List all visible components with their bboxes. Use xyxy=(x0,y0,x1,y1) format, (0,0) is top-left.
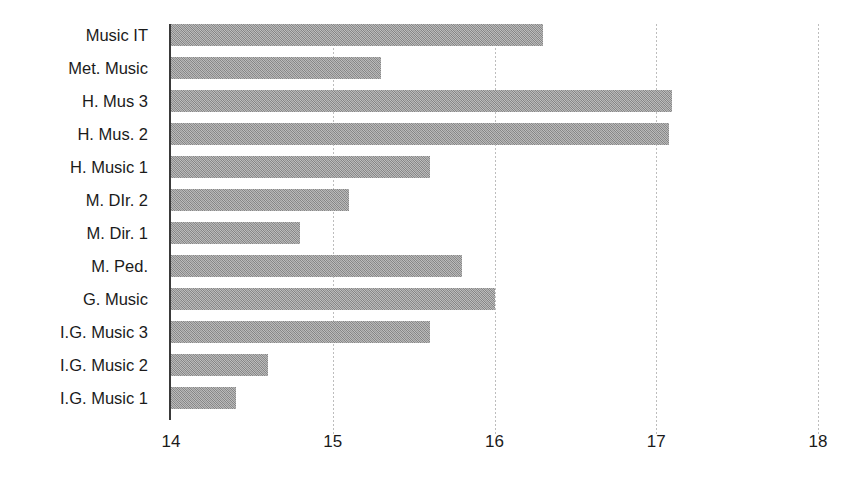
gridline-17 xyxy=(656,24,657,436)
value-tick-label: 14 xyxy=(141,432,201,452)
value-axis: 1415161718 xyxy=(171,432,851,462)
category-axis: Music ITMet. MusicH. Mus 3H. Mus. 2H. Mu… xyxy=(0,24,160,420)
category-label: M. DIr. 2 xyxy=(86,189,148,211)
bar xyxy=(171,255,462,277)
category-label: M. Dir. 1 xyxy=(87,222,148,244)
value-tick-label: 15 xyxy=(303,432,363,452)
bar xyxy=(171,123,669,145)
category-label: M. Ped. xyxy=(91,255,148,277)
bar xyxy=(171,24,543,46)
bar xyxy=(171,354,268,376)
value-tick-label: 17 xyxy=(626,432,686,452)
bar xyxy=(171,321,430,343)
bar xyxy=(171,288,495,310)
value-tick-label: 18 xyxy=(788,432,848,452)
gridline-15 xyxy=(333,24,334,436)
category-label: H. Mus 3 xyxy=(82,90,148,112)
bar-chart: Music ITMet. MusicH. Mus 3H. Mus. 2H. Mu… xyxy=(0,0,868,479)
gridline-16 xyxy=(495,24,496,436)
bar xyxy=(171,156,430,178)
category-label: H. Music 1 xyxy=(70,156,148,178)
gridline-18 xyxy=(818,24,819,436)
category-label: H. Mus. 2 xyxy=(77,123,148,145)
category-label: I.G. Music 1 xyxy=(60,387,148,409)
category-label: I.G. Music 3 xyxy=(60,321,148,343)
category-label: I.G. Music 2 xyxy=(60,354,148,376)
bar xyxy=(171,57,381,79)
plot-area xyxy=(171,24,818,420)
bar xyxy=(171,387,236,409)
category-label: Met. Music xyxy=(68,57,148,79)
category-label: G. Music xyxy=(83,288,148,310)
value-tick-label: 16 xyxy=(465,432,525,452)
bar xyxy=(171,222,300,244)
bar xyxy=(171,90,672,112)
bar xyxy=(171,189,349,211)
category-label: Music IT xyxy=(86,24,148,46)
